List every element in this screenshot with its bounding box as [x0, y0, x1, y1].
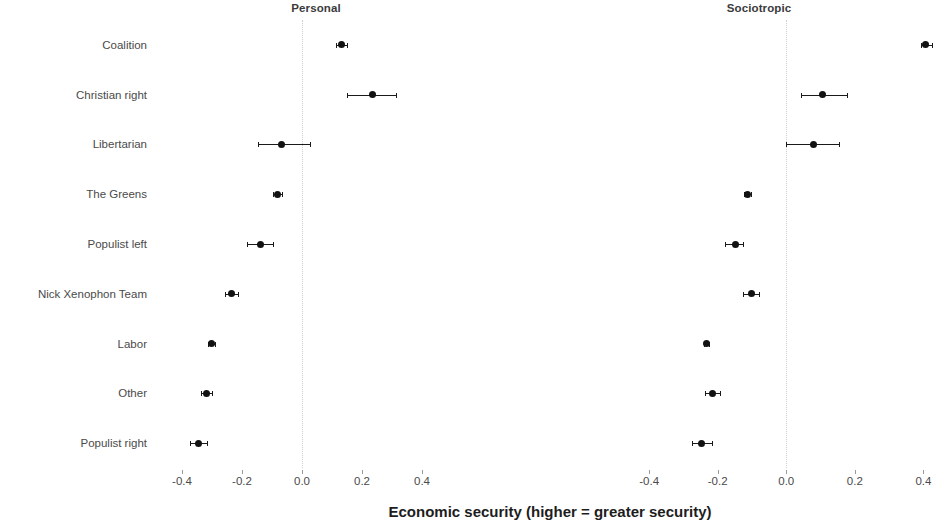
forest-plot-figure: Personal Sociotropic CoalitionChristian …	[0, 0, 944, 528]
confidence-interval-cap	[207, 441, 208, 446]
y-axis-label: Other	[118, 387, 147, 399]
confidence-interval-cap	[247, 242, 248, 247]
x-axis-tick	[923, 470, 924, 474]
confidence-interval-cap	[190, 441, 191, 446]
estimate-point	[338, 41, 345, 48]
estimate-point	[203, 390, 210, 397]
confidence-interval-cap	[238, 292, 239, 297]
y-axis-label: Christian right	[76, 89, 147, 101]
x-axis-tick	[242, 470, 243, 474]
y-axis-label: Populist left	[88, 238, 147, 250]
confidence-interval-cap	[712, 441, 713, 446]
x-axis-tick	[855, 470, 856, 474]
confidence-interval-cap	[347, 43, 348, 48]
y-axis-label: The Greens	[86, 188, 147, 200]
x-axis-tick-label: 0.0	[294, 475, 310, 487]
confidence-interval-cap	[336, 43, 337, 48]
estimate-point	[257, 241, 264, 248]
confidence-interval-cap	[396, 93, 397, 98]
x-axis-sociotropic: -0.4-0.20.00.20.4	[608, 470, 944, 492]
confidence-interval-cap	[839, 142, 840, 147]
x-axis-tick	[786, 470, 787, 474]
x-axis-personal: -0.4-0.20.00.20.4	[152, 470, 452, 492]
estimate-point	[274, 191, 281, 198]
x-axis-tick-label: 0.0	[778, 475, 794, 487]
confidence-interval-cap	[212, 391, 213, 396]
y-axis-label: Labor	[118, 338, 147, 350]
estimate-point	[810, 141, 817, 148]
x-axis-tick	[182, 470, 183, 474]
x-axis-tick	[718, 470, 719, 474]
y-axis-category-labels: CoalitionChristian rightLibertarianThe G…	[0, 20, 147, 468]
estimate-point	[278, 141, 285, 148]
estimate-point	[819, 91, 826, 98]
confidence-interval-cap	[282, 192, 283, 197]
confidence-interval-cap	[201, 391, 202, 396]
x-axis-tick	[422, 470, 423, 474]
confidence-interval-cap	[847, 93, 848, 98]
x-axis-tick	[362, 470, 363, 474]
estimate-point	[732, 241, 739, 248]
confidence-interval-cap	[751, 192, 752, 197]
x-axis-tick-label: 0.4	[414, 475, 430, 487]
confidence-interval-cap	[692, 441, 693, 446]
confidence-interval-cap	[225, 292, 226, 297]
estimate-point	[709, 390, 716, 397]
confidence-interval-cap	[801, 93, 802, 98]
confidence-interval-cap	[786, 142, 787, 147]
x-axis-tick-label: -0.4	[172, 475, 192, 487]
plot-area-sociotropic	[608, 20, 944, 468]
x-axis-tick-label: 0.2	[354, 475, 370, 487]
confidence-interval-cap	[743, 242, 744, 247]
estimate-point	[922, 41, 929, 48]
estimate-point	[369, 91, 376, 98]
confidence-interval-cap	[932, 43, 933, 48]
confidence-interval-cap	[705, 391, 706, 396]
confidence-interval-cap	[273, 242, 274, 247]
reference-line-zero-sociotropic	[786, 20, 788, 468]
estimate-point	[228, 290, 235, 297]
y-axis-label: Coalition	[102, 39, 147, 51]
y-axis-label: Populist right	[81, 437, 147, 449]
x-axis-tick-label: 0.4	[915, 475, 931, 487]
confidence-interval-cap	[258, 142, 259, 147]
reference-line-zero-personal	[302, 20, 304, 468]
plot-area-personal	[152, 20, 452, 468]
confidence-interval-cap	[347, 93, 348, 98]
confidence-interval-cap	[759, 292, 760, 297]
estimate-point	[698, 440, 705, 447]
x-axis-tick-label: -0.2	[708, 475, 728, 487]
estimate-point	[744, 191, 751, 198]
x-axis-tick-label: -0.4	[639, 475, 659, 487]
y-axis-label: Nick Xenophon Team	[38, 288, 147, 300]
x-axis-title: Economic security (higher = greater secu…	[388, 503, 711, 520]
panel-title-personal: Personal	[291, 2, 340, 14]
confidence-interval-cap	[310, 142, 311, 147]
confidence-interval-cap	[720, 391, 721, 396]
x-axis-tick-label: 0.2	[847, 475, 863, 487]
confidence-interval-cap	[215, 342, 216, 347]
y-axis-label: Libertarian	[93, 138, 147, 150]
estimate-point	[748, 290, 755, 297]
estimate-point	[208, 340, 215, 347]
x-axis-tick	[649, 470, 650, 474]
x-axis-tick-label: -0.2	[232, 475, 252, 487]
panel-title-sociotropic: Sociotropic	[727, 2, 791, 14]
estimate-point	[195, 440, 202, 447]
confidence-interval-cap	[743, 292, 744, 297]
x-axis-tick	[302, 470, 303, 474]
confidence-interval-cap	[725, 242, 726, 247]
